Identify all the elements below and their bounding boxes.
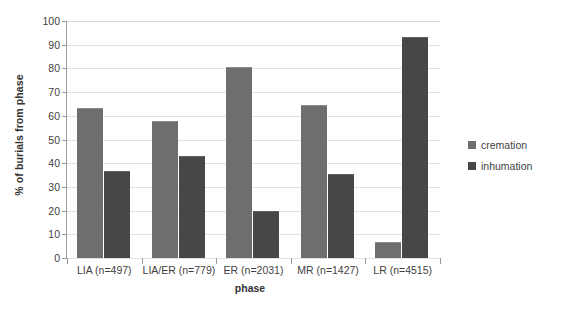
x-axis-category-label: LR (n=4515) — [358, 264, 448, 276]
bar-group — [291, 21, 366, 258]
y-axis-tick-label: 70 — [30, 86, 60, 98]
legend-item-cremation[interactable]: cremation — [468, 139, 568, 151]
x-axis-tick — [440, 258, 441, 264]
bar-inhumation[interactable] — [402, 37, 428, 258]
bar-cremation[interactable] — [301, 105, 327, 258]
y-axis-tick-label: 30 — [30, 181, 60, 193]
legend-label-inhumation: inhumation — [481, 160, 532, 172]
bar-cremation[interactable] — [375, 242, 401, 258]
y-axis-tick-labels: 0102030405060708090100 — [28, 0, 60, 313]
inhumation-swatch-icon — [468, 162, 476, 170]
legend-label-cremation: cremation — [481, 139, 527, 151]
y-axis-title: % of burials from phase — [8, 0, 30, 270]
bar-group — [216, 21, 291, 258]
bar-cremation[interactable] — [77, 108, 103, 258]
y-axis-tick-label: 60 — [30, 110, 60, 122]
bar-group — [142, 21, 217, 258]
y-axis-tick-label: 10 — [30, 228, 60, 240]
y-axis-tick-label: 100 — [30, 15, 60, 27]
y-axis-tick-label: 50 — [30, 134, 60, 146]
y-axis-tick-label: 0 — [30, 252, 60, 264]
x-axis-title-text: phase — [235, 282, 265, 294]
x-axis-title: phase — [60, 282, 440, 294]
legend: cremation inhumation — [468, 139, 568, 181]
bar-group — [67, 21, 142, 258]
legend-item-inhumation[interactable]: inhumation — [468, 160, 568, 172]
y-axis-tick-label: 80 — [30, 62, 60, 74]
bar-inhumation[interactable] — [104, 171, 130, 259]
bar-inhumation[interactable] — [179, 156, 205, 258]
plot-area — [67, 21, 440, 258]
y-axis-tick-label: 40 — [30, 157, 60, 169]
bar-inhumation[interactable] — [253, 211, 279, 258]
y-axis-tick-label: 90 — [30, 39, 60, 51]
bar-chart: % of burials from phase 0102030405060708… — [0, 0, 571, 313]
bar-cremation[interactable] — [152, 121, 178, 258]
y-axis-title-text: % of burials from phase — [13, 74, 25, 195]
gridline — [67, 258, 440, 259]
bar-cremation[interactable] — [226, 67, 252, 258]
bar-inhumation[interactable] — [328, 174, 354, 258]
cremation-swatch-icon — [468, 141, 476, 149]
bar-group — [365, 21, 440, 258]
y-axis-tick-label: 20 — [30, 205, 60, 217]
